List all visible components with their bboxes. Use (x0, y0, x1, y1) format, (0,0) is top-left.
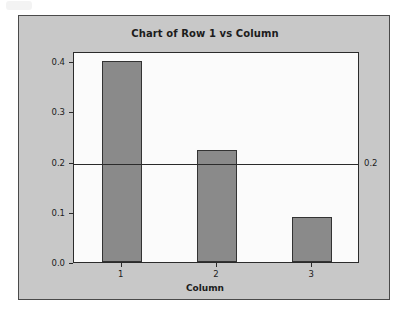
plot-inner (74, 53, 358, 262)
x-tick-mark (216, 263, 217, 267)
x-tick-mark (311, 263, 312, 267)
bar-3 (292, 217, 332, 262)
y-tick-label: 0.3 (51, 107, 65, 117)
bar-1 (102, 61, 142, 262)
reference-line-label: 0.2 (364, 158, 378, 168)
x-tick-label: 3 (309, 269, 314, 279)
plot-area (73, 52, 359, 263)
bar-2 (197, 150, 237, 262)
y-tick-label: 0.4 (51, 57, 65, 67)
scan-artifact (6, 1, 32, 10)
x-axis-title: Column (19, 283, 391, 293)
reference-line (74, 164, 358, 165)
y-tick-label: 0.2 (51, 158, 65, 168)
y-tick-label: 0.0 (51, 258, 65, 268)
y-tick-label: 0.1 (51, 208, 65, 218)
y-tick-mark (69, 263, 73, 264)
x-tick-label: 2 (213, 269, 218, 279)
chart-title: Chart of Row 1 vs Column (19, 28, 391, 39)
x-tick-label: 1 (118, 269, 123, 279)
x-tick-mark (121, 263, 122, 267)
figure-panel: Chart of Row 1 vs Column Row 1 proportio… (18, 15, 390, 300)
